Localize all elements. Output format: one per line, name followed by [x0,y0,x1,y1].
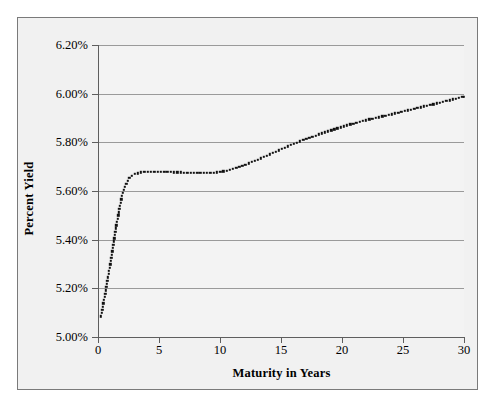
y-axis-tick-mark [92,142,98,143]
y-axis-tick-mark [92,288,98,289]
gridline-horizontal [98,142,464,143]
gridline-horizontal [98,45,464,46]
y-axis-tick-mark [92,94,98,95]
y-axis-tick-label: 6.20% [18,39,88,52]
x-axis-tick-label: 0 [95,344,101,357]
x-axis-title: Maturity in Years [98,366,465,381]
gridlines [98,45,464,337]
x-axis-tick-label: 20 [336,344,349,357]
gridline-horizontal [98,191,464,192]
y-axis-line [98,45,99,338]
x-axis-tick-label: 10 [214,344,227,357]
gridline-horizontal [98,240,464,241]
y-axis-tick-mark [92,45,98,46]
gridline-horizontal [98,94,464,95]
y-axis-tick-mark [92,191,98,192]
y-axis-tick-label: 5.00% [18,331,88,344]
gridline-horizontal [98,288,464,289]
x-axis-tick-label: 5 [156,344,162,357]
y-axis-title: Percent Yield [22,162,37,236]
x-axis-tick-label: 15 [275,344,288,357]
y-axis-tick-mark [92,240,98,241]
y-axis-tick-label: 5.80% [18,136,88,149]
chart-frame: 5.00%5.20%5.40%5.60%5.80%6.00%6.20% 0510… [17,17,478,390]
x-axis-tick-label: 25 [397,344,410,357]
y-axis-tick-label: 5.20% [18,282,88,295]
x-axis-tick-label: 30 [458,344,471,357]
y-axis-tick-label: 6.00% [18,87,88,100]
